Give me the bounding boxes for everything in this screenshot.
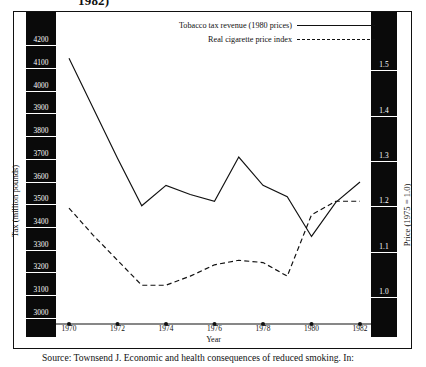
x-tick-label-1974: 1974	[159, 324, 174, 333]
y-right-tick-1-1: 1.1	[371, 241, 397, 250]
x-tick-label-1978: 1978	[256, 324, 271, 333]
y-axis-right-scale-strip: 1.51.41.31.21.11.0	[371, 12, 397, 337]
y-left-tick-3900: 3900	[26, 103, 56, 112]
y-axis-left-label: Tax (million pounds)	[10, 146, 20, 256]
y-left-tick-4000: 4000	[26, 80, 56, 89]
y-left-tick-separator	[26, 318, 56, 319]
source-caption: Source: Townsend J. Economic and health …	[42, 352, 426, 363]
y-axis-left-scale-strip: 4200410040003900380037003600350034003300…	[26, 12, 56, 337]
x-tick-label-1982: 1982	[353, 324, 368, 333]
x-axis-label: Year	[56, 335, 371, 344]
y-left-tick-separator	[26, 295, 56, 296]
y-right-tick-1-2: 1.2	[371, 196, 397, 205]
y-left-tick-3600: 3600	[26, 171, 56, 180]
y-left-tick-3800: 3800	[26, 126, 56, 135]
y-left-tick-separator	[26, 136, 56, 137]
x-tick-label-1972: 1972	[110, 324, 125, 333]
y-right-tick-1-4: 1.4	[371, 105, 397, 114]
y-left-tick-3000: 3000	[26, 307, 56, 316]
y-axis-right-label: Price (1975 = 1.0)	[402, 160, 412, 270]
x-tick-label-1976: 1976	[207, 324, 222, 333]
y-left-tick-separator	[26, 272, 56, 273]
y-right-tick-separator	[371, 70, 397, 71]
x-tick-label-1970: 1970	[62, 324, 77, 333]
y-left-tick-3500: 3500	[26, 194, 56, 203]
x-tick-label-1980: 1980	[304, 324, 319, 333]
y-left-tick-3300: 3300	[26, 239, 56, 248]
y-right-tick-1-3: 1.3	[371, 151, 397, 160]
y-right-tick-separator	[371, 116, 397, 117]
y-left-tick-4100: 4100	[26, 58, 56, 67]
plot-area	[56, 12, 371, 337]
y-left-tick-separator	[26, 113, 56, 114]
y-left-tick-separator	[26, 227, 56, 228]
y-right-tick-1-5: 1.5	[371, 60, 397, 69]
y-left-tick-separator	[26, 204, 56, 205]
series-line-tobacco-tax-revenue	[69, 58, 360, 236]
y-left-tick-separator	[26, 91, 56, 92]
y-left-tick-separator	[26, 45, 56, 46]
y-right-tick-separator	[371, 297, 397, 298]
y-left-tick-separator	[26, 250, 56, 251]
series-line-real-cigarette-price-index	[69, 201, 360, 285]
y-right-tick-1-0: 1.0	[371, 287, 397, 296]
y-left-tick-3400: 3400	[26, 216, 56, 225]
y-right-tick-separator	[371, 252, 397, 253]
y-left-tick-3700: 3700	[26, 148, 56, 157]
y-left-tick-separator	[26, 68, 56, 69]
figure-title-fragment: 1982)	[78, 0, 109, 9]
y-left-tick-3100: 3100	[26, 284, 56, 293]
y-left-tick-separator	[26, 182, 56, 183]
y-left-tick-4200: 4200	[26, 35, 56, 44]
plot-svg	[56, 12, 371, 337]
y-right-tick-separator	[371, 206, 397, 207]
y-right-tick-separator	[371, 161, 397, 162]
y-left-tick-separator	[26, 159, 56, 160]
y-left-tick-3200: 3200	[26, 262, 56, 271]
